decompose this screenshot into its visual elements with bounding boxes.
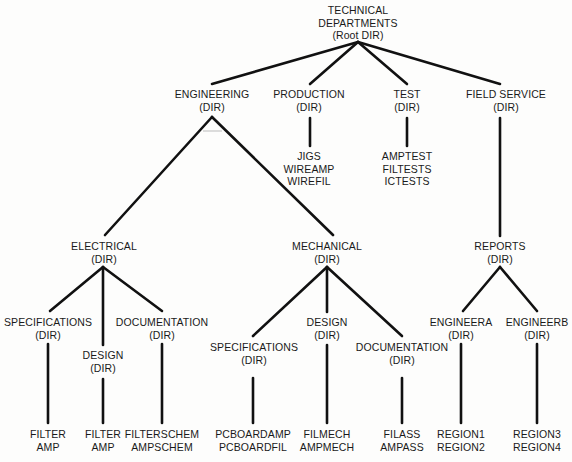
elec-specifications-directory-node: SPECIFICATIONS (DIR) xyxy=(4,316,92,341)
engineerb-files: REGION3 REGION4 xyxy=(513,428,561,453)
tree-connector-lines xyxy=(0,0,572,462)
elec-design-directory-node: DESIGN (DIR) xyxy=(83,349,124,374)
file-item: AMP xyxy=(30,441,66,454)
file-item: AMPASS xyxy=(380,441,424,454)
engineering-directory-node: ENGINEERING (DIR) xyxy=(175,88,250,113)
file-item: PCBOARDFIL xyxy=(215,441,291,454)
file-item: WIREFIL xyxy=(284,175,335,188)
node-name: PRODUCTION xyxy=(273,88,345,101)
node-type: (DIR) xyxy=(210,354,298,367)
file-item: REGION2 xyxy=(437,441,485,454)
production-directory-node: PRODUCTION (DIR) xyxy=(273,88,345,113)
elec-documentation-directory-node: DOCUMENTATION (DIR) xyxy=(116,316,209,341)
node-type: (DIR) xyxy=(474,253,525,266)
engineera-directory-node: ENGINEERA (DIR) xyxy=(430,316,493,341)
node-name: ENGINEERB xyxy=(506,316,569,329)
electrical-directory-node: ELECTRICAL (DIR) xyxy=(71,240,137,265)
node-name: ENGINEERING xyxy=(175,88,250,101)
file-item: FILASS xyxy=(380,428,424,441)
node-type: (DIR) xyxy=(292,253,362,266)
node-type: (DIR) xyxy=(466,101,546,114)
mech-design-directory-node: DESIGN (DIR) xyxy=(307,316,348,341)
file-item: AMPSCHEM xyxy=(125,441,199,454)
node-type: (DIR) xyxy=(71,253,137,266)
field-service-directory-node: FIELD SERVICE (DIR) xyxy=(466,88,546,113)
elec-specifications-files: FILTER AMP xyxy=(30,428,66,453)
production-files-list: JIGS WIREAMP WIREFIL xyxy=(284,150,335,188)
file-item: FILMECH xyxy=(300,428,354,441)
node-name: DOCUMENTATION xyxy=(116,316,209,329)
file-item: AMPMECH xyxy=(300,441,354,454)
node-name: TEST xyxy=(393,88,420,101)
node-type: (DIR) xyxy=(116,329,209,342)
mechanical-directory-node: MECHANICAL (DIR) xyxy=(292,240,362,265)
node-name: DOCUMENTATION xyxy=(356,341,449,354)
node-name: SPECIFICATIONS xyxy=(210,341,298,354)
engineera-files: REGION1 REGION2 xyxy=(437,428,485,453)
root-label-line1: TECHNICAL xyxy=(318,4,397,17)
node-name: DESIGN xyxy=(307,316,348,329)
test-files-list: AMPTEST FILTESTS ICTESTS xyxy=(382,150,432,188)
mech-specifications-directory-node: SPECIFICATIONS (DIR) xyxy=(210,341,298,366)
root-label-line2: DEPARTMENTS xyxy=(318,17,397,30)
reports-directory-node: REPORTS (DIR) xyxy=(474,240,525,265)
file-item: FILTER xyxy=(30,428,66,441)
file-item: FILTER xyxy=(85,428,121,441)
directory-tree-diagram: TECHNICAL DEPARTMENTS (Root DIR) ENGINEE… xyxy=(0,0,572,462)
node-name: REPORTS xyxy=(474,240,525,253)
node-type: (DIR) xyxy=(307,329,348,342)
file-item: REGION3 xyxy=(513,428,561,441)
node-name: ENGINEERA xyxy=(430,316,493,329)
file-item: AMPTEST xyxy=(382,150,432,163)
mech-specifications-files: PCBOARDAMP PCBOARDFIL xyxy=(215,428,291,453)
node-type: (DIR) xyxy=(83,362,124,375)
file-item: WIREAMP xyxy=(284,163,335,176)
node-name: MECHANICAL xyxy=(292,240,362,253)
elec-documentation-files: FILTERSCHEM AMPSCHEM xyxy=(125,428,199,453)
node-type: (DIR) xyxy=(273,101,345,114)
node-name: ELECTRICAL xyxy=(71,240,137,253)
root-directory-node: TECHNICAL DEPARTMENTS (Root DIR) xyxy=(318,4,397,42)
file-item: JIGS xyxy=(284,150,335,163)
elec-design-files: FILTER AMP xyxy=(85,428,121,453)
file-item: REGION4 xyxy=(513,441,561,454)
node-name: FIELD SERVICE xyxy=(466,88,546,101)
test-directory-node: TEST (DIR) xyxy=(393,88,420,113)
mech-documentation-directory-node: DOCUMENTATION (DIR) xyxy=(356,341,449,366)
mech-documentation-files: FILASS AMPASS xyxy=(380,428,424,453)
file-item: FILTERSCHEM xyxy=(125,428,199,441)
file-item: ICTESTS xyxy=(382,175,432,188)
node-type: (DIR) xyxy=(4,329,92,342)
file-item: REGION1 xyxy=(437,428,485,441)
mech-design-files: FILMECH AMPMECH xyxy=(300,428,354,453)
file-item: FILTESTS xyxy=(382,163,432,176)
node-type: (DIR) xyxy=(175,101,250,114)
node-type: (DIR) xyxy=(393,101,420,114)
root-label-line3: (Root DIR) xyxy=(318,29,397,42)
engineerb-directory-node: ENGINEERB (DIR) xyxy=(506,316,569,341)
node-name: SPECIFICATIONS xyxy=(4,316,92,329)
node-type: (DIR) xyxy=(356,354,449,367)
file-item: PCBOARDAMP xyxy=(215,428,291,441)
node-type: (DIR) xyxy=(506,329,569,342)
node-name: DESIGN xyxy=(83,349,124,362)
node-type: (DIR) xyxy=(430,329,493,342)
file-item: AMP xyxy=(85,441,121,454)
